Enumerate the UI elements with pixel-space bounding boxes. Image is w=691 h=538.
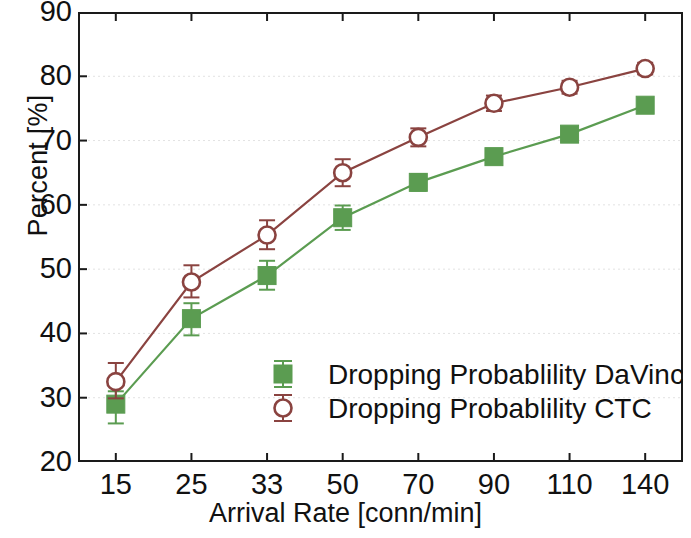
y-tick-label: 60 <box>14 190 72 219</box>
y-tick-label: 80 <box>14 61 72 90</box>
x-tick-label: 25 <box>175 470 207 499</box>
legend-label: Dropping Probablility CTC <box>328 393 652 424</box>
y-tick-label: 40 <box>14 318 72 347</box>
y-tick-label: 30 <box>14 383 72 412</box>
x-tick-label: 90 <box>478 470 510 499</box>
x-tick-label: 33 <box>251 470 283 499</box>
legend-marker-open-circle-icon <box>275 400 292 417</box>
chart-legend: Dropping Probablility DaVinciDropping Pr… <box>274 359 683 424</box>
y-tick-label: 50 <box>14 254 72 283</box>
x-tick-label: 15 <box>100 470 132 499</box>
x-axis-tick-labels: 152533507090110140 <box>0 470 691 510</box>
plot-area: Dropping Probablility DaVinciDropping Pr… <box>78 12 683 462</box>
x-tick-label: 70 <box>402 470 434 499</box>
legend-marker-filled-square-icon <box>274 365 292 383</box>
series-ctc <box>107 60 653 398</box>
chart-canvas: Dropping Probablility DaVinciDropping Pr… <box>78 12 683 462</box>
y-tick-label: 70 <box>14 126 72 155</box>
legend-label: Dropping Probablility DaVinci <box>328 359 683 390</box>
y-tick-label: 90 <box>14 0 72 26</box>
x-tick-label: 140 <box>621 470 669 499</box>
y-axis-tick-labels: 2030405060708090 <box>0 0 72 538</box>
chart-figure: Percent [%] Arrival Rate [conn/min] 2030… <box>0 0 691 538</box>
x-tick-label: 110 <box>546 470 592 499</box>
x-tick-label: 50 <box>327 470 359 499</box>
